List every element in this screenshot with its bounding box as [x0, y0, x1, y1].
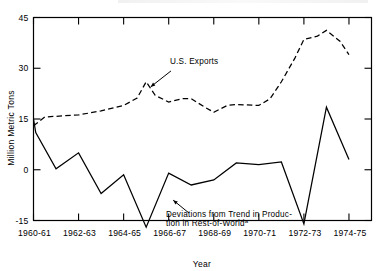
x-tick-label: 1968-69	[198, 228, 231, 238]
x-tick-label: 1974-75	[333, 228, 366, 238]
annotation-arrows	[151, 71, 189, 213]
annotation-deviations-line2-text: tion in Rest-of-World	[166, 219, 245, 228]
series-line-us-exports	[34, 30, 349, 125]
line-chart-canvas: 4530150-15 1960-611962-631964-651966-671…	[0, 0, 388, 271]
y-tick-label: 0	[24, 165, 29, 175]
us-exports-arrow-icon	[151, 71, 171, 87]
annotation-deviations-line1: Deviations from Trend in Produc-	[166, 210, 292, 219]
x-tick-label: 1964-65	[108, 228, 141, 238]
annotation-us-exports-label: U.S. Exports	[170, 57, 218, 66]
y-tick-label: -15	[15, 216, 28, 226]
annotation-deviations-superscript: a	[245, 218, 249, 224]
x-axis-tick-labels: 1960-611962-631964-651966-671968-691970-…	[18, 228, 366, 238]
y-axis-tick-labels: 4530150-15	[15, 13, 28, 226]
plot-frame	[34, 18, 372, 221]
y-tick-label: 30	[19, 63, 29, 73]
x-tick-label: 1966-67	[153, 228, 186, 238]
y-axis-title: Million Metric Tons	[6, 90, 16, 165]
x-axis-title: Year	[193, 259, 211, 269]
y-tick-label: 15	[19, 114, 29, 124]
x-tick-label: 1970-71	[243, 228, 276, 238]
x-tick-label: 1972-73	[288, 228, 321, 238]
x-axis-ticks	[34, 18, 349, 221]
y-tick-label: 45	[19, 13, 29, 23]
y-axis-ticks	[34, 18, 372, 221]
x-tick-label: 1960-61	[18, 228, 51, 238]
annotation-deviations-line2: tion in Rest-of-Worlda	[166, 218, 249, 228]
x-tick-label: 1962-63	[63, 228, 96, 238]
scan-artifact-smudge	[118, 0, 368, 3]
chart-figure: 4530150-15 1960-611962-631964-651966-671…	[0, 0, 388, 271]
